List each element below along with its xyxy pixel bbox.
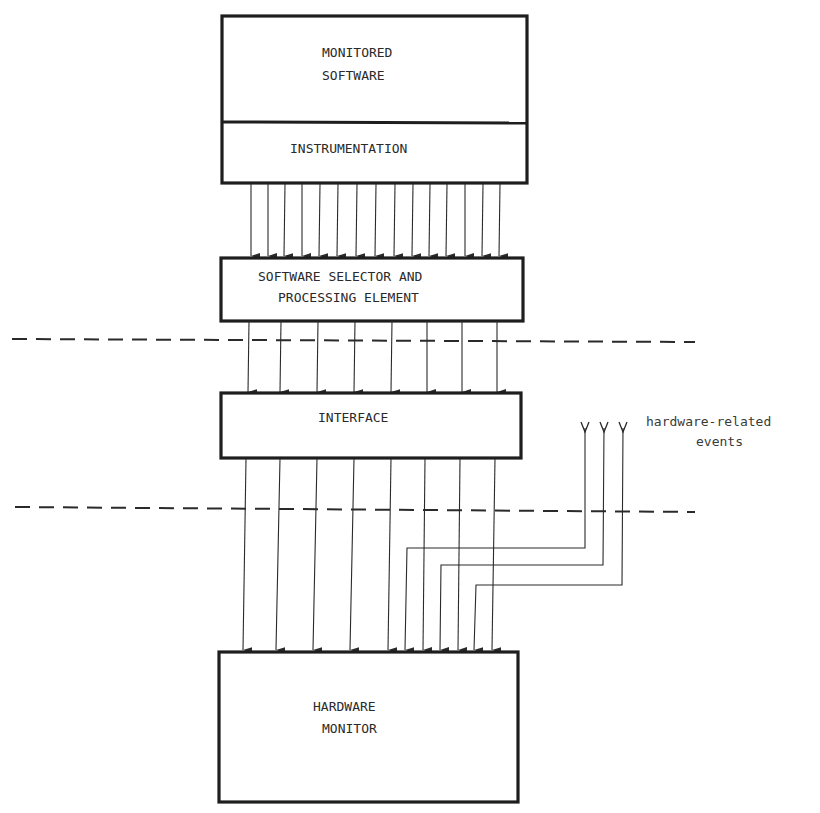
- interface-label: INTERFACE: [318, 410, 388, 425]
- selector-label-1: SOFTWARE SELECTOR AND: [258, 269, 423, 284]
- hardware-events-annotation: hardware-related events: [581, 414, 771, 449]
- hardware-monitor-label-2: MONITOR: [322, 721, 377, 736]
- hybrid-monitor-diagram: MONITORED SOFTWARE INSTRUMENTATION SOFTW…: [0, 0, 820, 813]
- interface-block: INTERFACE: [221, 393, 521, 458]
- hardware-events-label-1: hardware-related: [646, 414, 771, 429]
- hardware-boundary-dashed-line: [15, 507, 695, 512]
- monitored-software-block: MONITORED SOFTWARE INSTRUMENTATION: [222, 16, 527, 183]
- interface-to-monitor-arrows: [243, 459, 495, 650]
- hardware-events-label-2: events: [696, 434, 743, 449]
- selector-to-interface-arrows: [248, 321, 497, 392]
- software-boundary-dashed-line: [12, 339, 695, 342]
- hardware-monitor-block: HARDWARE MONITOR: [219, 652, 518, 802]
- software-selector-block: SOFTWARE SELECTOR AND PROCESSING ELEMENT: [221, 258, 523, 321]
- monitored-software-label-2: SOFTWARE: [322, 68, 385, 83]
- instrumentation-to-selector-arrows: [251, 184, 500, 256]
- hardware-event-arrows: [405, 428, 623, 650]
- hardware-monitor-label-1: HARDWARE: [313, 699, 376, 714]
- selector-label-2: PROCESSING ELEMENT: [278, 290, 419, 305]
- instrumentation-label: INSTRUMENTATION: [290, 141, 407, 156]
- monitored-software-label-1: MONITORED: [322, 45, 393, 60]
